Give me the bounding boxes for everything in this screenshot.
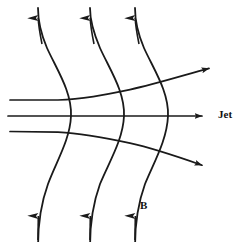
magnetic-field-line-group bbox=[38, 8, 168, 246]
jet-streamline-top bbox=[10, 68, 209, 100]
field-line-2 bbox=[90, 8, 124, 246]
field-line-1 bbox=[38, 8, 71, 246]
bottom-page-crop bbox=[0, 242, 247, 249]
jet-streamline-group bbox=[8, 68, 209, 165]
field-line-diagram bbox=[0, 0, 247, 249]
jet-streamline-bottom bbox=[10, 132, 202, 166]
figure-container: Jet B bbox=[0, 0, 247, 249]
magnetic-field-label: B bbox=[140, 200, 147, 211]
jet-label: Jet bbox=[218, 109, 232, 120]
